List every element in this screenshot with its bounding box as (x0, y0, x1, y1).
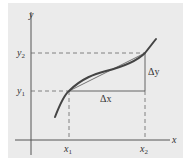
secant-line-diagram: y x y2 y1 x1 x2 Δx Δy (0, 0, 187, 163)
delta-x-label: Δx (100, 93, 111, 104)
x-axis-label: x (171, 134, 177, 145)
delta-y-label: Δy (148, 66, 159, 77)
y-axis-label: y (28, 9, 34, 20)
figure-background (8, 3, 183, 158)
